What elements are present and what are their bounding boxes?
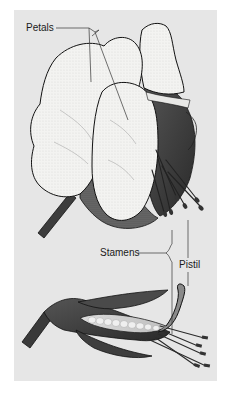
label-pistil: Pistil	[179, 260, 200, 270]
petal-front	[92, 82, 158, 220]
cross-section-view	[22, 284, 210, 368]
whole-flower-view	[31, 23, 205, 238]
petal-back	[140, 23, 184, 94]
label-stamens: Stamens	[100, 248, 139, 258]
stem	[38, 193, 76, 238]
flower-illustration	[0, 0, 228, 394]
label-petals: Petals	[26, 23, 54, 33]
